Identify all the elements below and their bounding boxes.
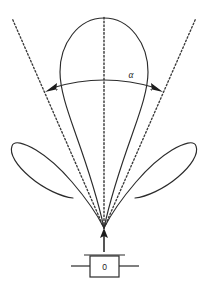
alpha-angle-label: α [129, 70, 135, 80]
alpha-arc-left-arrowhead [45, 83, 58, 92]
antenna-pattern-diagram: α 0 [0, 0, 204, 284]
right-beam-edge-line [104, 18, 196, 228]
source-box-label: 0 [102, 262, 107, 272]
left-side-lobe-curve [11, 143, 104, 228]
right-side-lobe-curve [104, 143, 197, 228]
left-beam-edge-line [12, 18, 104, 228]
antenna-pattern-figure: α 0 [0, 0, 204, 284]
alpha-arc-right-arrowhead [150, 83, 163, 92]
